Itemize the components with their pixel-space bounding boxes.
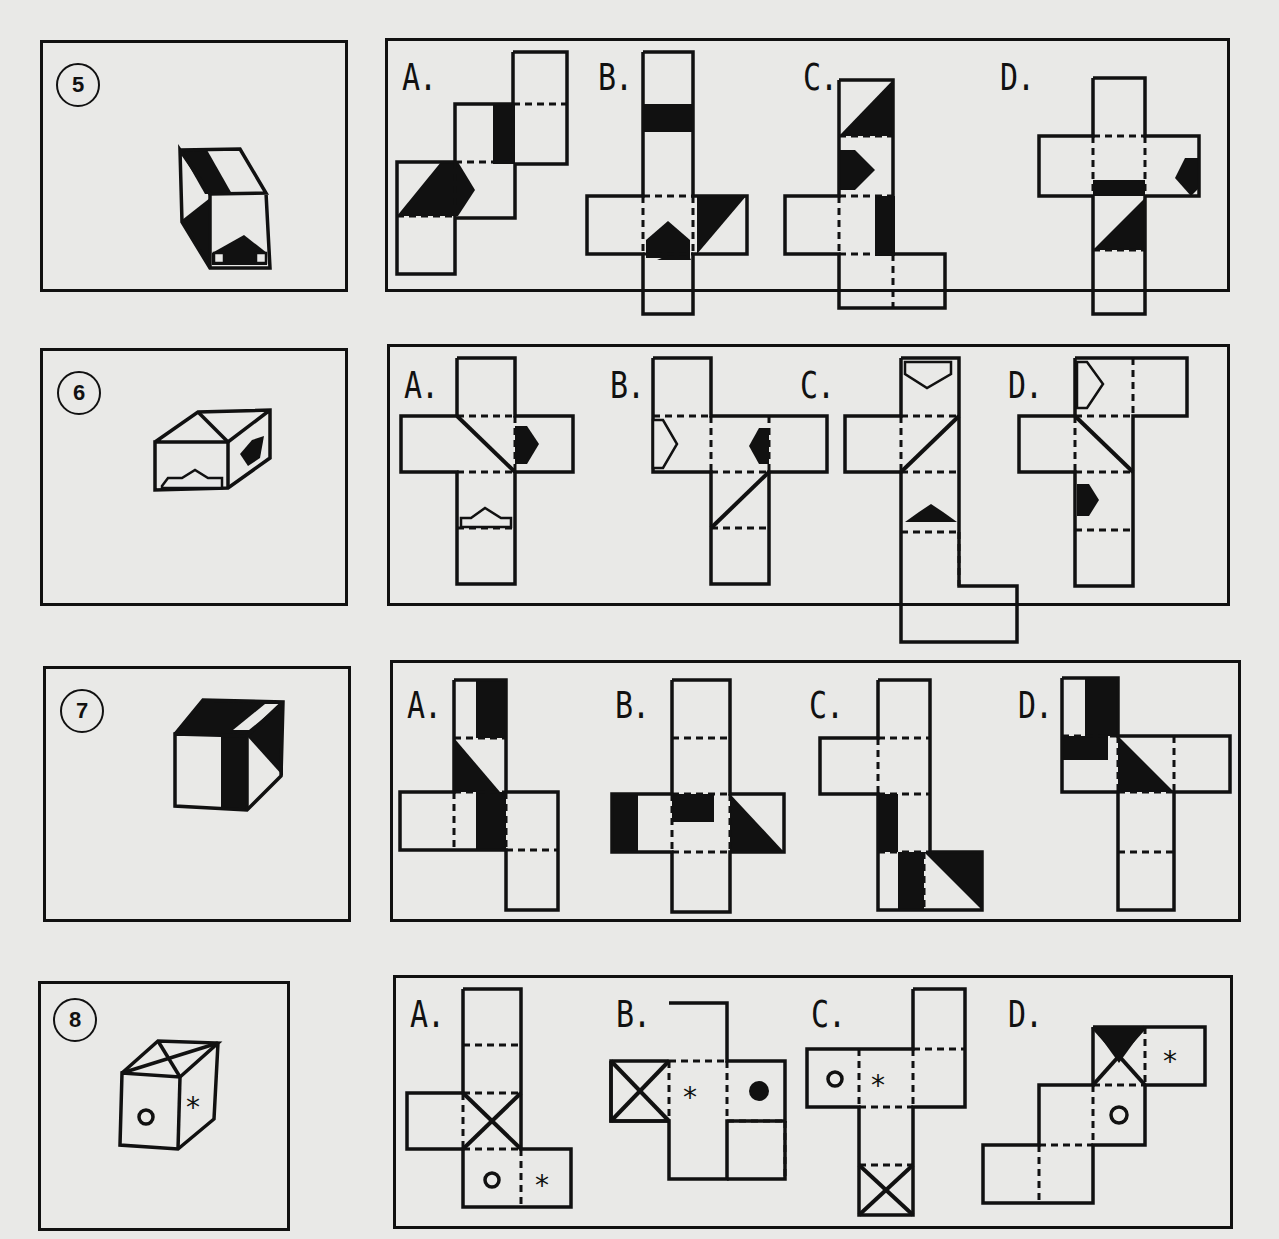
problem-6-cube-panel: 6	[40, 348, 348, 606]
problem-5-cube-panel: 5	[40, 40, 348, 292]
svg-text:*: *	[871, 1069, 885, 1102]
problem-6-options-panel: A. B. C. D.	[387, 344, 1230, 606]
net-figures-7	[390, 660, 1241, 922]
cube-figure-6	[40, 348, 348, 606]
problem-8-cube-panel: 8 *	[38, 981, 290, 1231]
svg-text:*: *	[683, 1081, 697, 1114]
net-7-b	[612, 680, 784, 912]
problem-8-options-panel: A. B. C. D. * *	[393, 975, 1233, 1229]
net-5-d	[1039, 78, 1199, 314]
net-figures-5	[385, 38, 1230, 292]
cube-figure-7	[43, 666, 351, 922]
net-figures-8: * * *	[393, 975, 1233, 1229]
asterisk-symbol: *	[186, 1091, 200, 1124]
net-5-c	[785, 80, 945, 308]
net-8-b: *	[611, 1003, 785, 1179]
cube-figure-5	[40, 40, 348, 292]
net-5-b	[587, 52, 747, 314]
net-6-b	[653, 358, 827, 584]
problem-7-cube-panel: 7	[43, 666, 351, 922]
net-7-d	[1062, 678, 1230, 910]
net-5-a	[397, 52, 567, 274]
svg-text:*: *	[535, 1169, 549, 1202]
net-7-a	[400, 680, 558, 910]
net-8-c: *	[807, 989, 965, 1215]
cube-figure-8: *	[38, 981, 290, 1231]
net-6-a	[401, 358, 573, 584]
net-8-d: *	[983, 1027, 1205, 1203]
svg-text:*: *	[1163, 1045, 1177, 1078]
net-6-c	[845, 358, 1017, 642]
problem-7-options-panel: A. B. C. D.	[390, 660, 1241, 922]
net-7-c	[820, 680, 982, 910]
net-8-a: *	[407, 989, 571, 1207]
net-figures-6	[387, 344, 1230, 606]
net-6-d	[1019, 358, 1187, 586]
problem-5-options-panel: A. B. C. D.	[385, 38, 1230, 292]
